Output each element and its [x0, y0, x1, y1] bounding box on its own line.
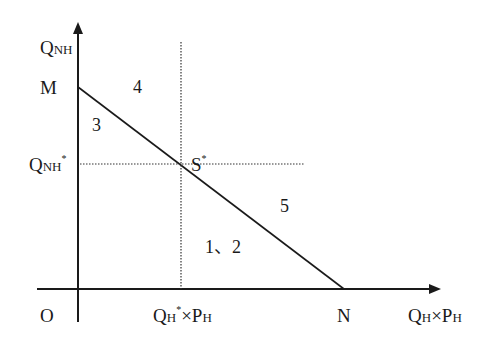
x-tick-q: Q	[153, 305, 167, 326]
x-axis-label-q-sub: H	[422, 310, 431, 325]
diagram-canvas	[0, 0, 503, 342]
x-axis-arrow-icon	[429, 284, 441, 294]
x-axis-label: QH×PH	[408, 306, 462, 325]
budget-line-MN	[78, 87, 344, 289]
region-1-2-label: 1、2	[205, 238, 241, 256]
x-axis-label-p: P	[442, 305, 453, 326]
x-axis-label-times: ×	[431, 305, 442, 326]
x-tick-qh-star-ph: QH*×PH	[153, 306, 212, 325]
region-5-label: 5	[280, 197, 289, 215]
point-S-main: S	[191, 154, 202, 175]
x-axis-label-p-sub: H	[452, 310, 461, 325]
point-S-star-label: S*	[191, 155, 207, 174]
y-axis-label: QNH	[40, 38, 73, 57]
region-4-label: 4	[133, 78, 142, 96]
y-axis-label-main: Q	[40, 37, 54, 58]
origin-label: O	[40, 306, 54, 325]
point-M-label: M	[40, 78, 57, 97]
x-tick-p: P	[192, 305, 203, 326]
y-axis-arrow-icon	[73, 22, 83, 34]
y-tick-sup: *	[62, 153, 67, 164]
y-tick-qnh-star: QNH*	[29, 155, 67, 174]
y-tick-main: Q	[29, 154, 43, 175]
y-axis-label-sub: NH	[54, 42, 73, 57]
y-tick-sub: NH	[43, 159, 62, 174]
point-N-label: N	[337, 306, 351, 325]
x-tick-q-sub: H	[167, 310, 176, 325]
region-3-label: 3	[92, 116, 101, 134]
x-axis-label-q: Q	[408, 305, 422, 326]
x-tick-p-sub: H	[202, 310, 211, 325]
point-S-sup: *	[202, 153, 207, 164]
x-tick-sup: *	[176, 304, 181, 315]
x-tick-times: ×	[181, 305, 192, 326]
